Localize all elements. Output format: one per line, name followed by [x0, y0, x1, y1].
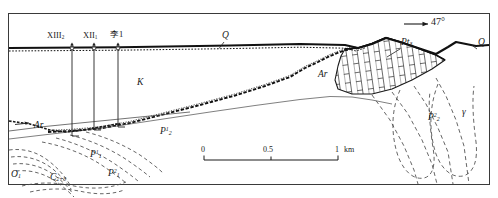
well-label-12-1-text: XII: [83, 30, 95, 40]
unit-label-p1-1-sub: 1: [99, 153, 102, 159]
well-label-li-1-text: 李1: [110, 29, 123, 39]
scale-unit-label: km: [344, 146, 354, 154]
unit-label-granite: γ: [462, 108, 466, 118]
unit-label-o1: O1: [11, 170, 21, 180]
figure-frame: [9, 14, 490, 185]
unit-label-c2-3: C2+3: [50, 173, 66, 183]
unit-label-ar-left: Ar: [34, 121, 44, 131]
unit-label-p2-2: P22: [428, 113, 440, 123]
scale-tick-1: 1: [335, 146, 339, 154]
scale-tick-half: 0.5: [263, 146, 273, 154]
unit-label-p1-2-sub: 1: [117, 172, 120, 178]
unit-label-ar-middle: Ar: [318, 70, 328, 80]
dip-angle-label: 47°: [431, 17, 445, 27]
unit-label-q: Q: [222, 31, 229, 41]
unit-label-o1-base: O: [11, 169, 18, 179]
geologic-cross-section-figure: 47° XIII2 XII1 李1 Q Q K Ar Ar Pt3 P12 P2…: [0, 0, 498, 198]
unit-label-p2-1-sub: 2: [169, 130, 172, 136]
cross-section-canvas: [0, 0, 498, 198]
unit-label-p1-2: P21: [108, 169, 120, 179]
well-label-12-1-sub: 1: [95, 34, 98, 40]
unit-label-p2-2-sub: 2: [437, 116, 440, 122]
well-label-li-1: 李1: [110, 30, 123, 39]
unit-label-pt3: Pt3: [401, 38, 412, 48]
unit-label-p2-1: P12: [160, 127, 172, 137]
unit-label-q-right: Q: [478, 38, 485, 48]
well-label-12-1: XII1: [83, 31, 97, 41]
unit-label-pt3-sub: 3: [409, 41, 412, 47]
unit-label-c2-3-sub: 2+3: [56, 176, 66, 182]
unit-label-k: K: [137, 78, 143, 88]
well-label-13-2-sub: 2: [62, 34, 65, 40]
unit-label-p1-1: P11: [90, 150, 102, 160]
unit-label-o1-sub: 1: [18, 173, 21, 179]
well-label-13-2-text: XIII: [47, 30, 62, 40]
well-label-13-2: XIII2: [47, 31, 64, 41]
scale-tick-0: 0: [201, 146, 205, 154]
